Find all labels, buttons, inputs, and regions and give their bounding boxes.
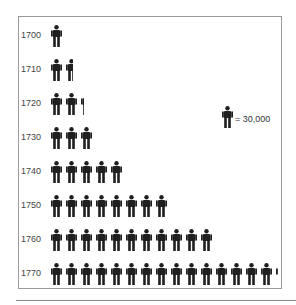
- person-icon: [124, 193, 139, 217]
- icon-group: [49, 91, 84, 115]
- pictograph-row: 1770: [19, 261, 281, 285]
- year-label: 1750: [21, 200, 47, 210]
- person-icon: [109, 159, 124, 183]
- chart-frame: 17001710172017301740175017601770 = 30,00…: [18, 16, 282, 289]
- person-icon: [79, 227, 94, 251]
- person-icon: [94, 159, 109, 183]
- icon-group: [49, 23, 64, 47]
- year-label: 1760: [21, 234, 47, 244]
- pictograph-row: 1700: [19, 23, 281, 47]
- person-icon: [94, 193, 109, 217]
- person-icon: [49, 125, 64, 149]
- partial-person-icon: [79, 91, 84, 115]
- pictograph-row: 1710: [19, 57, 281, 81]
- person-icon: [199, 227, 214, 251]
- person-icon: [184, 261, 199, 285]
- person-icon: [64, 193, 79, 217]
- person-icon: [124, 227, 139, 251]
- year-label: 1710: [21, 64, 47, 74]
- person-icon: [109, 193, 124, 217]
- pictograph-row: 1760: [19, 227, 281, 251]
- person-icon: [229, 261, 244, 285]
- icon-group: [49, 227, 214, 251]
- year-label: 1720: [21, 98, 47, 108]
- person-icon: [64, 91, 79, 115]
- year-label: 1700: [21, 30, 47, 40]
- person-icon: [49, 261, 64, 285]
- person-icon: [222, 106, 233, 132]
- bottom-rule: [16, 300, 296, 301]
- person-icon: [184, 227, 199, 251]
- person-icon: [139, 227, 154, 251]
- person-icon: [109, 227, 124, 251]
- person-icon: [109, 261, 124, 285]
- person-icon: [139, 193, 154, 217]
- person-icon: [79, 193, 94, 217]
- person-icon: [259, 261, 274, 285]
- icon-group: [49, 159, 124, 183]
- year-label: 1740: [21, 166, 47, 176]
- pictograph-row: 1750: [19, 193, 281, 217]
- person-icon: [214, 261, 229, 285]
- person-icon: [79, 125, 94, 149]
- year-label: 1770: [21, 268, 47, 278]
- partial-person-icon: [64, 57, 73, 81]
- person-icon: [94, 227, 109, 251]
- person-icon: [64, 227, 79, 251]
- person-icon: [49, 91, 64, 115]
- person-icon: [169, 261, 184, 285]
- person-icon: [64, 125, 79, 149]
- icon-group: [49, 125, 94, 149]
- legend: = 30,000: [222, 106, 270, 132]
- person-icon: [154, 261, 169, 285]
- pictograph-row: 1740: [19, 159, 281, 183]
- person-icon: [49, 57, 64, 81]
- icon-group: [49, 57, 73, 81]
- person-icon: [154, 227, 169, 251]
- person-icon: [94, 261, 109, 285]
- person-icon: [79, 261, 94, 285]
- person-icon: [154, 193, 169, 217]
- icon-group: [49, 193, 169, 217]
- person-icon: [199, 261, 214, 285]
- legend-label: = 30,000: [235, 114, 270, 124]
- year-label: 1730: [21, 132, 47, 142]
- person-icon: [49, 159, 64, 183]
- person-icon: [139, 261, 154, 285]
- icon-group: [49, 261, 278, 285]
- person-icon: [169, 227, 184, 251]
- partial-person-icon: [274, 261, 278, 285]
- person-icon: [49, 227, 64, 251]
- person-icon: [64, 261, 79, 285]
- person-icon: [49, 23, 64, 47]
- person-icon: [124, 261, 139, 285]
- person-icon: [49, 193, 64, 217]
- person-icon: [64, 159, 79, 183]
- person-icon: [79, 159, 94, 183]
- person-icon: [244, 261, 259, 285]
